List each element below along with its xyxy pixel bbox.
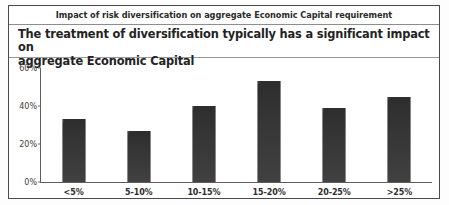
bar-slot — [302, 58, 367, 182]
bar — [388, 97, 411, 183]
x-tick-label: 5-10% — [125, 188, 153, 197]
slide-subtitle-block: The treatment of diversification typical… — [9, 25, 439, 58]
x-axis-line — [40, 182, 432, 183]
header-title: Impact of risk diversification on aggreg… — [56, 10, 392, 20]
bar — [127, 131, 150, 182]
x-tick-label: 10-15% — [187, 188, 220, 197]
slide-header: Impact of risk diversification on aggreg… — [9, 6, 439, 25]
bar-series — [41, 58, 432, 182]
x-tick-label: >25% — [387, 188, 412, 197]
x-axis-labels: <5%5-10%10-15%15-20%20-25%>25% — [41, 188, 432, 199]
subtitle-line-1: The treatment of diversification typical… — [18, 28, 430, 55]
x-tick-label: 20-25% — [318, 188, 351, 197]
y-axis-ticks: 0%20%40%60% — [9, 58, 37, 188]
bar — [258, 81, 281, 182]
x-tick-label: 15-20% — [253, 188, 286, 197]
y-tick-label: 0% — [24, 178, 37, 187]
bar-chart: 0%20%40%60% <5%5-10%10-15%15-20%20-25%>2… — [9, 58, 440, 199]
scanned-page: Impact of risk diversification on aggreg… — [0, 0, 449, 205]
x-tick-label: <5% — [64, 188, 84, 197]
bar-slot — [106, 58, 171, 182]
y-tick-label: 40% — [19, 102, 37, 111]
bar-slot — [171, 58, 236, 182]
bar-slot — [237, 58, 302, 182]
bar-slot — [367, 58, 432, 182]
bar — [62, 119, 85, 182]
bar — [323, 108, 346, 182]
bar-slot — [41, 58, 106, 182]
slide-card: Impact of risk diversification on aggreg… — [8, 5, 440, 199]
y-tick-label: 20% — [19, 140, 37, 149]
y-tick-label: 60% — [19, 64, 37, 73]
bar — [192, 106, 215, 182]
